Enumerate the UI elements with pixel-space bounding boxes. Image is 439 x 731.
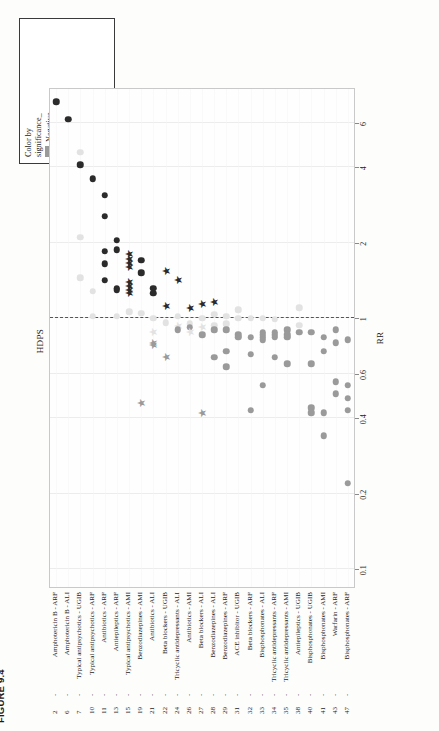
y-axis-category-labels: 2-Amphotericin B - ARF6-Amphotericin B -… xyxy=(49,588,355,716)
data-point-circle[interactable] xyxy=(174,312,181,319)
data-point-circle[interactable] xyxy=(89,175,96,182)
data-point-star[interactable]: ★ xyxy=(208,296,219,307)
data-point-circle[interactable] xyxy=(296,321,303,328)
data-point-circle[interactable] xyxy=(283,334,290,341)
data-point-circle[interactable] xyxy=(64,116,71,123)
data-point-circle[interactable] xyxy=(137,309,144,316)
data-point-circle[interactable] xyxy=(52,98,59,105)
y-axis-tick: - xyxy=(269,693,277,695)
data-point-circle[interactable] xyxy=(271,334,278,341)
data-point-circle[interactable] xyxy=(247,407,254,414)
data-point-circle[interactable] xyxy=(308,329,315,336)
data-point-circle[interactable] xyxy=(296,304,303,311)
data-point-star[interactable]: ★ xyxy=(123,287,134,298)
data-point-star[interactable]: ★ xyxy=(196,298,207,309)
data-point-circle[interactable] xyxy=(89,312,96,319)
data-point-circle[interactable] xyxy=(210,326,217,333)
data-point-circle[interactable] xyxy=(271,353,278,360)
data-point-circle[interactable] xyxy=(113,286,120,293)
data-point-circle[interactable] xyxy=(137,257,144,264)
data-point-circle[interactable] xyxy=(320,432,327,439)
data-point-star[interactable]: ★ xyxy=(135,397,146,408)
data-point-circle[interactable] xyxy=(223,363,230,370)
data-point-circle[interactable] xyxy=(223,326,230,333)
data-point-circle[interactable] xyxy=(344,395,351,402)
data-point-star[interactable]: ★ xyxy=(196,407,207,418)
data-point-star[interactable]: ★ xyxy=(184,326,195,337)
data-point-circle[interactable] xyxy=(174,326,181,333)
scatter-plot-area[interactable]: ★★★★★★★★★★★★★★★★★★★★★★★ xyxy=(49,88,355,588)
data-point-circle[interactable] xyxy=(113,246,120,253)
data-point-circle[interactable] xyxy=(247,334,254,341)
data-point-star[interactable]: ★ xyxy=(184,302,195,313)
row-gridline xyxy=(56,89,57,587)
data-point-circle[interactable] xyxy=(77,161,84,168)
data-point-circle[interactable] xyxy=(210,310,217,317)
data-point-circle[interactable] xyxy=(77,234,84,241)
data-point-circle[interactable] xyxy=(308,360,315,367)
data-point-circle[interactable] xyxy=(77,148,84,155)
data-point-circle[interactable] xyxy=(77,274,84,281)
data-point-circle[interactable] xyxy=(89,288,96,295)
data-point-star[interactable]: ★ xyxy=(160,300,171,311)
data-point-circle[interactable] xyxy=(344,336,351,343)
data-point-circle[interactable] xyxy=(101,248,108,255)
row-gridline xyxy=(214,89,215,587)
data-point-circle[interactable] xyxy=(235,306,242,313)
data-point-star[interactable]: ★ xyxy=(147,339,158,350)
data-point-circle[interactable] xyxy=(344,382,351,389)
x-tick-label: 4 xyxy=(359,166,368,170)
data-point-circle[interactable] xyxy=(344,480,351,487)
data-point-circle[interactable] xyxy=(101,260,108,267)
data-point-circle[interactable] xyxy=(283,360,290,367)
row-gridline xyxy=(177,89,178,587)
y-axis-tick: - xyxy=(63,693,71,695)
data-point-circle[interactable] xyxy=(308,409,315,416)
data-point-circle[interactable] xyxy=(259,336,266,343)
data-point-circle[interactable] xyxy=(320,409,327,416)
data-point-circle[interactable] xyxy=(259,315,266,322)
data-point-circle[interactable] xyxy=(235,334,242,341)
data-point-circle[interactable] xyxy=(162,319,169,326)
data-point-circle[interactable] xyxy=(235,315,242,322)
data-point-circle[interactable] xyxy=(113,236,120,243)
data-point-circle[interactable] xyxy=(125,308,132,315)
data-point-circle[interactable] xyxy=(320,334,327,341)
data-point-circle[interactable] xyxy=(320,347,327,354)
data-point-star[interactable]: ★ xyxy=(172,274,183,285)
data-point-circle[interactable] xyxy=(198,331,205,338)
data-point-star[interactable]: ★ xyxy=(147,326,158,337)
data-point-circle[interactable] xyxy=(332,339,339,346)
y-axis-tick: - xyxy=(318,693,326,695)
x-tick xyxy=(355,374,359,375)
y-axis-category-label: Benzodiazepines - ALI xyxy=(209,592,217,657)
y-axis-rank-label: 24 xyxy=(172,706,180,713)
data-point-star[interactable]: ★ xyxy=(123,261,134,272)
legend-color-title-line2: significance_ xyxy=(33,25,43,157)
data-point-circle[interactable] xyxy=(101,276,108,283)
data-point-star[interactable]: ★ xyxy=(160,351,171,362)
data-point-circle[interactable] xyxy=(113,312,120,319)
x-tick-label: 2 xyxy=(359,241,368,245)
data-point-circle[interactable] xyxy=(332,326,339,333)
data-point-circle[interactable] xyxy=(150,289,157,296)
data-point-circle[interactable] xyxy=(296,329,303,336)
data-point-circle[interactable] xyxy=(223,312,230,319)
data-point-circle[interactable] xyxy=(247,315,254,322)
data-point-circle[interactable] xyxy=(101,213,108,220)
data-point-circle[interactable] xyxy=(247,350,254,357)
data-point-circle[interactable] xyxy=(150,315,157,322)
y-axis-tick: - xyxy=(257,693,265,695)
data-point-circle[interactable] xyxy=(223,347,230,354)
data-point-circle[interactable] xyxy=(344,407,351,414)
data-point-circle[interactable] xyxy=(332,378,339,385)
data-point-circle[interactable] xyxy=(137,269,144,276)
data-point-circle[interactable] xyxy=(101,191,108,198)
data-point-circle[interactable] xyxy=(259,382,266,389)
data-point-circle[interactable] xyxy=(332,390,339,397)
data-point-circle[interactable] xyxy=(198,315,205,322)
data-point-star[interactable]: ★ xyxy=(160,265,171,276)
data-point-circle[interactable] xyxy=(271,316,278,323)
y-axis-category-label: Benzodiazepines - ARF xyxy=(221,592,229,659)
data-point-circle[interactable] xyxy=(210,353,217,360)
